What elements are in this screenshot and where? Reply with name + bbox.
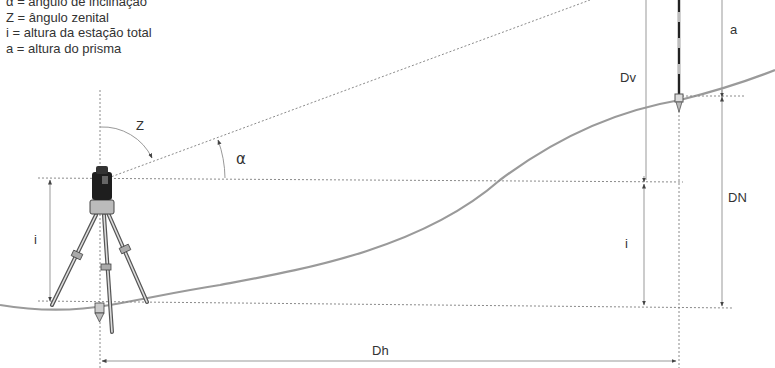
diagram-graphics <box>0 0 775 368</box>
label-a: a <box>730 22 737 37</box>
label-i-right: i <box>625 236 628 251</box>
label-dv: Dv <box>620 70 636 85</box>
alpha-arc <box>218 140 225 178</box>
total-station-diagram: α = ângulo de inclinação Z = ângulo zeni… <box>0 0 775 368</box>
total-station-tripod <box>52 166 147 332</box>
label-zenith: Z <box>136 118 144 133</box>
label-alpha: α <box>236 150 246 168</box>
label-dh: Dh <box>372 343 389 358</box>
ground-horizontal-line <box>38 301 733 308</box>
prism-pole <box>675 0 683 112</box>
label-i-left: i <box>34 232 37 247</box>
sight-line <box>108 0 590 178</box>
label-dn: DN <box>728 190 747 205</box>
instrument-horizontal-line <box>38 178 683 182</box>
zenith-arc <box>100 127 152 158</box>
terrain-line <box>0 70 775 310</box>
